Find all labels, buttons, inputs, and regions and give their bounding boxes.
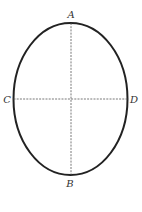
label-b: B [65, 178, 73, 189]
label-c: C [3, 94, 11, 105]
ellipse-diagram: A B C D [0, 0, 142, 212]
label-a: A [66, 9, 74, 20]
label-d: D [129, 94, 138, 105]
